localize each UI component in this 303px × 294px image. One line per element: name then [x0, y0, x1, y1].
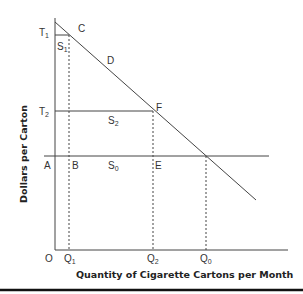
x-axis-title: Quantity of Cigarette Cartons per Month — [76, 269, 294, 280]
label-f: F — [156, 102, 162, 113]
label-q0: Q0 — [200, 253, 212, 265]
label-q1: Q1 — [64, 253, 76, 265]
label-q2: Q2 — [147, 253, 159, 265]
label-origin: O — [45, 253, 53, 264]
label-t1: T1 — [39, 27, 49, 39]
label-e: E — [155, 160, 162, 171]
label-t2: T2 — [39, 106, 49, 118]
label-b: B — [72, 160, 79, 171]
label-a: A — [44, 160, 51, 171]
y-axis-title: Dollars per Carton — [18, 105, 29, 203]
label-s1: S1 — [57, 41, 68, 53]
tax-diagram: T1 T2 A C D S1 F S2 B S0 E O Q1 Q2 Q0 Qu… — [0, 0, 303, 294]
label-s0: S0 — [108, 160, 119, 172]
label-d: D — [107, 55, 114, 66]
label-s2: S2 — [108, 115, 119, 127]
label-c: C — [78, 23, 85, 34]
